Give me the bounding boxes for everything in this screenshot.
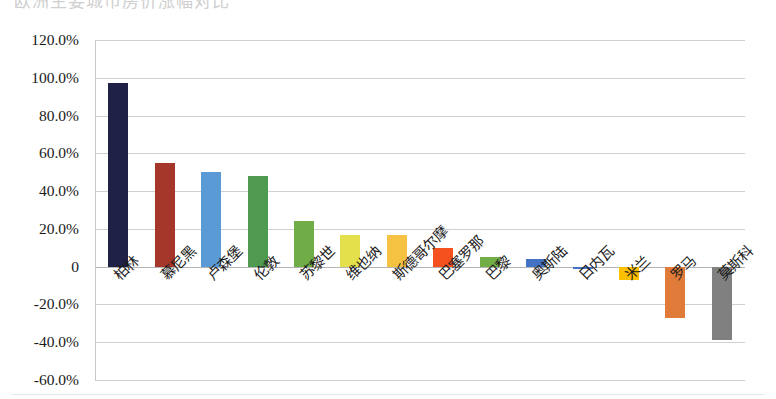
bar-慕尼黑[interactable]	[155, 163, 175, 267]
bar-卢森堡[interactable]	[201, 172, 221, 266]
gridline	[95, 304, 745, 305]
y-axis-tick-label: 40.0%	[0, 183, 79, 199]
y-axis-tick-label: -60.0%	[0, 372, 79, 388]
bar-chart: 欧洲主要城市房价涨幅对比 120.0%100.0%80.0%60.0%40.0%…	[0, 0, 776, 399]
gridline	[95, 191, 745, 192]
y-axis-tick-label: 120.0%	[0, 32, 79, 48]
chart-title-text: 欧洲主要城市房价涨幅对比	[14, 0, 230, 12]
bar-柏林[interactable]	[108, 83, 128, 266]
gridline	[95, 78, 745, 79]
gridline	[95, 342, 745, 343]
y-axis-tick-label: 100.0%	[0, 70, 79, 86]
y-axis-tick-label: -40.0%	[0, 334, 79, 350]
gridline	[95, 153, 745, 154]
gridline	[95, 40, 745, 41]
y-axis-tick-label: 0	[0, 259, 79, 275]
y-axis-tick-label: 20.0%	[0, 221, 79, 237]
gridline	[95, 229, 745, 230]
gridline	[95, 116, 745, 117]
y-axis-tick-label: -20.0%	[0, 296, 79, 312]
chart-title-cropped: 欧洲主要城市房价涨幅对比	[0, 0, 776, 16]
plot-area	[95, 40, 745, 380]
outer-bottom-rule	[12, 394, 764, 395]
bar-伦敦[interactable]	[248, 176, 268, 267]
y-axis-line	[95, 40, 96, 380]
y-axis-tick-label: 80.0%	[0, 108, 79, 124]
y-axis-tick-label: 60.0%	[0, 145, 79, 161]
plot-bottom-rule	[95, 380, 745, 381]
